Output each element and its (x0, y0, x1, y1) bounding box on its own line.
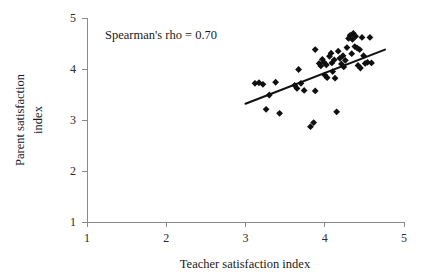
y-axis-ticks (82, 18, 87, 222)
data-point-marker (344, 44, 351, 51)
data-point-marker (312, 88, 319, 95)
data-point-marker (263, 106, 270, 113)
y-tick-label: 3 (70, 113, 76, 127)
data-point-marker (272, 79, 279, 86)
y-axis-title-line1: Parent satisfaction (13, 73, 27, 166)
data-point-marker (333, 108, 340, 115)
y-tick-label: 1 (70, 215, 76, 229)
x-tick-label: 5 (401, 231, 407, 245)
data-point-marker (332, 75, 339, 82)
scatter-plot-figure: 12345 12345 Spearman's rho = 0.70 Teache… (0, 0, 426, 279)
y-tick-label: 5 (70, 11, 76, 25)
data-point-marker (348, 50, 355, 57)
chart-canvas: 12345 12345 Spearman's rho = 0.70 Teache… (0, 0, 426, 279)
x-tick-label: 2 (163, 231, 169, 245)
data-point-marker (312, 46, 319, 53)
x-axis-title: Teacher satisfaction index (180, 257, 311, 271)
data-point-marker (359, 34, 366, 41)
x-tick-label: 1 (84, 231, 90, 245)
data-point-marker (368, 59, 375, 66)
data-point-marker (295, 66, 302, 73)
y-tick-label: 2 (70, 164, 76, 178)
x-axis-ticks (87, 222, 404, 227)
y-tick-label: 4 (70, 62, 76, 76)
x-axis-tick-labels: 12345 (84, 231, 407, 245)
data-point-marker (335, 48, 342, 55)
y-axis-title-line2: index (31, 105, 45, 134)
data-points (252, 30, 375, 130)
x-tick-label: 3 (243, 231, 249, 245)
y-axis-tick-labels: 12345 (70, 11, 76, 229)
spearman-rho-annotation: Spearman's rho = 0.70 (105, 28, 217, 42)
x-tick-label: 4 (322, 231, 328, 245)
data-point-marker (301, 87, 308, 94)
data-point-marker (367, 34, 374, 41)
data-point-marker (276, 110, 283, 117)
